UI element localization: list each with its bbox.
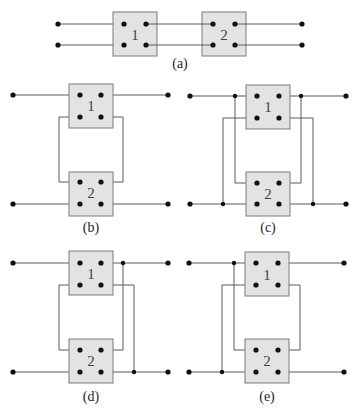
network-2-label: 2: [220, 27, 228, 43]
network-1-label: 1: [263, 267, 271, 283]
caption-a: (a): [172, 56, 188, 72]
network-1-label: 1: [264, 99, 272, 115]
network-1-label: 1: [87, 98, 95, 114]
panel-d: 1 2 (d): [10, 251, 170, 405]
caption-d: (d): [83, 389, 100, 405]
two-port-interconnection-figure: 1 2 (a) 1 2 (b): [0, 0, 362, 410]
network-2-label: 2: [264, 186, 272, 202]
panel-e: 1 2 (e): [186, 252, 346, 405]
caption-e: (e): [259, 389, 275, 405]
panel-c: 1 2 (c): [187, 85, 348, 236]
panel-a: 1 2 (a): [55, 12, 304, 72]
network-1-label: 1: [131, 27, 139, 43]
caption-b: (b): [83, 220, 100, 236]
network-2-label: 2: [87, 185, 95, 201]
network-2-label: 2: [87, 353, 95, 369]
network-1-label: 1: [87, 266, 95, 282]
network-2-label: 2: [263, 353, 271, 369]
panel-b: 1 2 (b): [10, 84, 170, 236]
caption-c: (c): [260, 220, 276, 236]
terminal-dots: [55, 21, 304, 47]
